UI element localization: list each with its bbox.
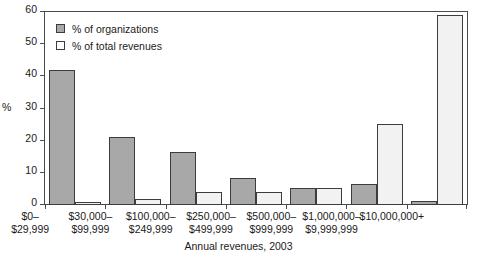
y-axis-tick-label: 60 (25, 4, 37, 15)
bar-organizations (49, 70, 75, 205)
x-axis-tick-mark (466, 205, 467, 209)
x-axis-tick-mark (105, 205, 106, 209)
x-axis-tick-label-line1: $10,000,000+ (360, 210, 425, 222)
bar-revenues (256, 192, 282, 205)
legend: % of organizations % of total revenues (56, 20, 162, 54)
y-axis-tick-label: 50 (25, 36, 37, 47)
x-axis-tick-mark (226, 205, 227, 209)
bar-revenues (316, 188, 342, 205)
y-axis-tick-label: 20 (25, 133, 37, 144)
bar-revenues (437, 15, 463, 205)
bar-organizations (290, 188, 316, 205)
x-axis-tick-mark (346, 205, 347, 209)
x-axis-tick-mark (45, 205, 46, 209)
y-axis-tick-label: 40 (25, 68, 37, 79)
legend-item-revenues: % of total revenues (56, 37, 162, 54)
legend-swatch-filled-gray-square-icon (56, 24, 65, 33)
bar-group (166, 12, 226, 205)
bar-revenues (196, 192, 222, 205)
legend-swatch-open-white-square-icon (56, 41, 65, 50)
y-axis-tick-label: 0 (31, 197, 37, 208)
y-axis-tick-label: 30 (25, 101, 37, 112)
x-axis-tick-labels: $0–$29,999$30,000–$99,999$100,000–$249,9… (0, 210, 477, 240)
bar-organizations (109, 137, 135, 205)
bar-group (226, 12, 286, 205)
y-axis-tick-label: 10 (25, 165, 37, 176)
bar-organizations (170, 152, 196, 205)
bar-group (407, 12, 467, 205)
legend-label-revenues: % of total revenues (72, 40, 162, 52)
legend-item-organizations: % of organizations (56, 20, 162, 37)
x-axis-tick-mark (407, 205, 408, 209)
x-axis-tick-label: $10,000,000+ (347, 210, 437, 223)
legend-label-organizations: % of organizations (72, 23, 158, 35)
y-axis-title: % (2, 102, 11, 113)
bar-chart-figure: 0102030405060 % $0–$29,999$30,000–$99,99… (0, 0, 477, 260)
x-axis-tick-label-line2: $9,999,999 (287, 223, 377, 236)
x-axis-tick-mark (166, 205, 167, 209)
bar-organizations (351, 184, 377, 205)
bar-group (346, 12, 406, 205)
x-axis-tick-label-line1: $0– (21, 210, 39, 222)
bar-revenues (377, 124, 403, 205)
x-axis-title: Annual revenues, 2003 (0, 240, 477, 252)
bar-group (286, 12, 346, 205)
x-axis-tick-mark (286, 205, 287, 209)
bar-organizations (230, 178, 256, 205)
